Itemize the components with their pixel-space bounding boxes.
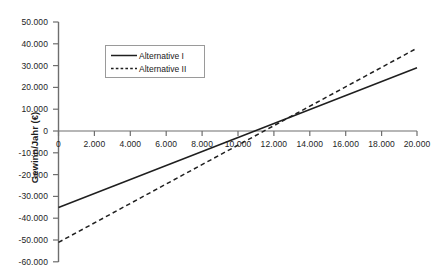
legend-item-alternative-ii: Alternative II [106, 62, 204, 75]
plot-area [0, 0, 440, 272]
legend: Alternative I Alternative II [105, 45, 205, 78]
x-tick-label: 16.000 [332, 139, 359, 149]
y-tick-label: 50.000 [6, 17, 48, 27]
y-tick-label: 0 [6, 126, 48, 136]
x-tick-label: 0 [56, 139, 61, 149]
legend-item-alternative-i: Alternative I [106, 49, 204, 62]
series-line-alternative-i [59, 68, 418, 208]
legend-label: Alternative I [138, 51, 184, 61]
y-tick-label: 20.000 [6, 82, 48, 92]
legend-swatch-dashed-line-icon [110, 64, 138, 73]
y-tick-label: -20.000 [6, 170, 48, 180]
y-tick-label: 40.000 [6, 39, 48, 49]
y-tick-label: -40.000 [6, 213, 48, 223]
x-tick-label: 2.000 [84, 139, 106, 149]
legend-label: Alternative II [138, 64, 186, 74]
legend-swatch-solid-line-icon [110, 51, 138, 60]
x-tick-label: 8.000 [191, 139, 213, 149]
y-tick-label: -60.000 [6, 257, 48, 267]
break-even-chart: Gewinn/Jahr (€) 50.000 40.000 30.000 20.… [0, 0, 440, 272]
y-tick-label: -50.000 [6, 235, 48, 245]
x-tick-label: 14.000 [296, 139, 323, 149]
y-tick-label: -30.000 [6, 191, 48, 201]
x-tick-label: 4.000 [119, 139, 141, 149]
x-tick-label: 10.000 [225, 139, 252, 149]
x-tick-label: 6.000 [155, 139, 177, 149]
y-tick-label: -10.000 [6, 148, 48, 158]
x-tick-label: 12.000 [261, 139, 288, 149]
y-tick-label: 10.000 [6, 104, 48, 114]
y-tick-label: 30.000 [6, 61, 48, 71]
x-tick-label: 20.000 [404, 139, 431, 149]
x-axis-ticks [59, 131, 418, 136]
x-tick-label: 18.000 [368, 139, 395, 149]
